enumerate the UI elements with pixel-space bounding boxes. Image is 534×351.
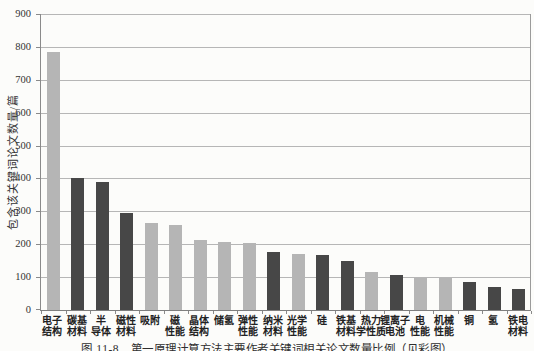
scanned-book-page: 包含该关键词论文数量/篇 010020030040050060070080090… <box>0 0 534 351</box>
bar-晶体结构 <box>194 240 207 310</box>
y-tick-label: 0 <box>26 305 31 315</box>
bar-氢 <box>488 287 501 310</box>
bar-机械性能 <box>439 278 452 310</box>
x-tick-mark <box>66 311 67 314</box>
x-label-line: 铁基 <box>336 315 356 326</box>
x-label-line: 性能 <box>410 326 430 337</box>
x-label-line: 氢 <box>488 315 498 326</box>
x-tick-mark <box>237 311 238 314</box>
y-tick-mark <box>36 277 40 278</box>
gridline <box>41 80 530 81</box>
bar-铁基材料 <box>341 261 354 310</box>
x-label-line: 性能 <box>434 326 454 337</box>
x-label-line: 电子 <box>42 315 62 326</box>
x-label-line: 碳基 <box>67 315 87 326</box>
y-tick-label: 600 <box>15 108 31 118</box>
y-tick-mark <box>36 309 40 310</box>
x-label-line: 锂离子 <box>380 315 410 326</box>
bar-弹性性能 <box>243 243 256 310</box>
y-tick-label: 500 <box>15 141 31 151</box>
x-label-line: 硅 <box>317 315 327 326</box>
x-label-line: 导体 <box>91 326 111 337</box>
x-label-电性能: 电性能 <box>410 315 430 337</box>
x-label-line: 电池 <box>380 326 410 337</box>
x-tick-mark <box>335 311 336 314</box>
bar-电子结构 <box>47 52 60 310</box>
x-label-line: 性能 <box>238 326 258 337</box>
plot-area <box>40 14 531 311</box>
x-label-锂离子电池: 锂离子电池 <box>380 315 410 337</box>
x-tick-mark <box>213 311 214 314</box>
y-tick-label: 400 <box>15 173 31 183</box>
bar-半导体 <box>96 182 109 310</box>
x-label-铁基材料: 铁基材料 <box>336 315 356 337</box>
x-label-line: 材料 <box>263 326 283 337</box>
x-tick-mark <box>458 311 459 314</box>
x-tick-mark <box>507 311 508 314</box>
y-tick-mark <box>36 178 40 179</box>
x-label-line: 铜 <box>464 315 474 326</box>
x-tick-mark <box>41 311 42 314</box>
y-tick-label: 200 <box>15 239 31 249</box>
x-tick-mark <box>115 311 116 314</box>
x-label-纳米材料: 纳米材料 <box>263 315 283 337</box>
x-tick-mark <box>311 311 312 314</box>
x-label-line: 储氢 <box>214 315 234 326</box>
x-label-碳基材料: 碳基材料 <box>67 315 87 337</box>
bar-吸附 <box>145 223 158 310</box>
x-label-line: 电 <box>410 315 430 326</box>
bar-铁电材料 <box>512 289 525 310</box>
x-label-铜: 铜 <box>464 315 474 326</box>
x-label-line: 材料 <box>508 326 528 337</box>
x-label-line: 光学 <box>287 315 307 326</box>
x-label-机械性能: 机械性能 <box>434 315 454 337</box>
x-tick-mark <box>531 311 532 314</box>
y-tick-mark <box>36 80 40 81</box>
x-label-晶体结构: 晶体结构 <box>189 315 209 337</box>
gridline <box>41 146 530 147</box>
gridline <box>41 211 530 212</box>
bar-热力学性质 <box>365 272 378 310</box>
y-tick-label: 700 <box>15 75 31 85</box>
x-label-电子结构: 电子结构 <box>42 315 62 337</box>
gridline <box>41 47 530 48</box>
x-label-吸附: 吸附 <box>140 315 160 326</box>
x-label-line: 晶体 <box>189 315 209 326</box>
y-tick-mark <box>36 47 40 48</box>
gridline <box>41 14 530 15</box>
x-label-line: 纳米 <box>263 315 283 326</box>
bar-铜 <box>463 282 476 310</box>
x-label-光学性能: 光学性能 <box>287 315 307 337</box>
x-tick-mark <box>286 311 287 314</box>
x-tick-mark <box>482 311 483 314</box>
x-label-line: 材料 <box>116 326 136 337</box>
bar-储氢 <box>218 242 231 310</box>
bar-磁性能 <box>169 225 182 310</box>
x-label-铁电材料: 铁电材料 <box>508 315 528 337</box>
x-label-line: 结构 <box>189 326 209 337</box>
x-label-line: 磁 <box>165 315 185 326</box>
gridline <box>41 113 530 114</box>
x-label-line: 材料 <box>67 326 87 337</box>
x-tick-mark <box>262 311 263 314</box>
y-tick-mark <box>36 113 40 114</box>
y-tick-label: 100 <box>15 272 31 282</box>
x-label-弹性性能: 弹性性能 <box>238 315 258 337</box>
y-tick-mark <box>36 244 40 245</box>
x-label-line: 性能 <box>165 326 185 337</box>
x-label-氢: 氢 <box>488 315 498 326</box>
y-tick-mark <box>36 146 40 147</box>
x-label-line: 磁性 <box>116 315 136 326</box>
x-tick-mark <box>90 311 91 314</box>
x-label-line: 机械 <box>434 315 454 326</box>
x-label-半导体: 半导体 <box>91 315 111 337</box>
bar-电性能 <box>414 278 427 310</box>
bar-碳基材料 <box>71 178 84 310</box>
x-tick-mark <box>360 311 361 314</box>
x-axis-labels: 电子结构碳基材料半导体磁性材料吸附磁性能晶体结构储氢弹性性能纳米材料光学性能硅铁… <box>40 315 530 339</box>
bar-纳米材料 <box>267 252 280 310</box>
y-tick-label: 300 <box>15 206 31 216</box>
x-tick-mark <box>139 311 140 314</box>
bar-光学性能 <box>292 254 305 310</box>
x-tick-mark <box>188 311 189 314</box>
